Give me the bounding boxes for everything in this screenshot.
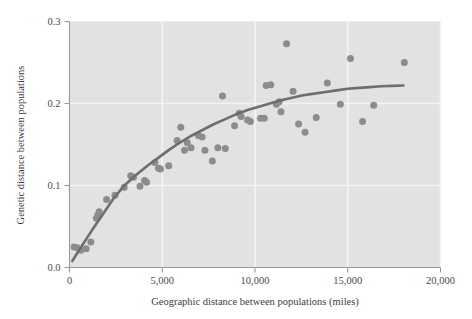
- data-point: [165, 162, 172, 169]
- x-tick-label: 10,000: [241, 275, 270, 286]
- data-point: [201, 147, 208, 154]
- data-point: [313, 114, 320, 121]
- data-point: [324, 80, 331, 87]
- x-tick-label: 15,000: [333, 275, 362, 286]
- data-point: [181, 147, 188, 154]
- y-axis-title: Genetic distance between populations: [15, 66, 26, 225]
- data-point: [199, 134, 206, 141]
- data-point: [337, 101, 344, 108]
- data-point: [136, 183, 143, 190]
- x-tick-label: 20,000: [426, 275, 455, 286]
- data-point: [370, 102, 377, 109]
- data-point: [83, 245, 90, 252]
- x-axis-title: Geographic distance between populations …: [151, 296, 359, 308]
- data-point: [214, 144, 221, 151]
- data-point: [157, 166, 164, 173]
- data-point: [143, 179, 150, 186]
- data-point: [222, 145, 229, 152]
- x-tick-label: 0: [67, 275, 72, 286]
- data-point: [219, 93, 226, 100]
- y-tick-label: 0.0: [47, 262, 60, 273]
- data-point: [261, 115, 268, 122]
- data-point: [290, 88, 297, 95]
- data-point: [277, 108, 284, 115]
- x-tick-label: 5,000: [150, 275, 174, 286]
- data-point: [247, 118, 254, 125]
- data-point: [359, 118, 366, 125]
- data-point: [103, 196, 110, 203]
- data-point: [283, 40, 290, 47]
- y-tick-label: 0.1: [47, 180, 60, 191]
- data-point: [87, 239, 94, 246]
- y-tick-label: 0.3: [47, 16, 60, 27]
- data-point: [267, 81, 274, 88]
- data-point: [401, 59, 408, 66]
- chart-canvas: 05,00010,00015,00020,000 0.00.10.20.3 Ge…: [0, 0, 472, 319]
- data-point: [209, 157, 216, 164]
- y-tick-label: 0.2: [47, 98, 60, 109]
- data-point: [302, 129, 309, 136]
- data-point: [177, 124, 184, 131]
- data-point: [231, 122, 238, 129]
- data-point: [295, 121, 302, 128]
- data-point: [347, 55, 354, 62]
- scatter-plot-figure: 05,00010,00015,00020,000 0.00.10.20.3 Ge…: [0, 0, 472, 319]
- data-point: [188, 144, 195, 151]
